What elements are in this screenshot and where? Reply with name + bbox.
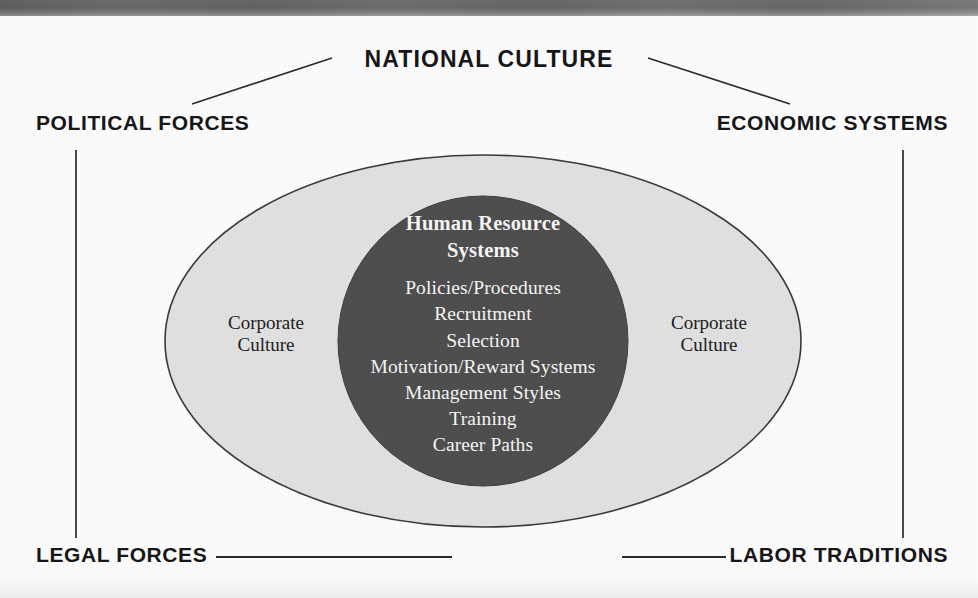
list-item: Training [297,406,669,432]
list-item: Policies/Procedures [297,275,669,301]
label-national-culture: NATIONAL CULTURE [0,46,978,73]
label-economic-systems: ECONOMIC SYSTEMS [717,111,948,135]
human-resource-systems-content: Human Resource Systems Policies/Procedur… [297,210,669,459]
human-resource-systems-list: Policies/Procedures Recruitment Selectio… [297,275,669,459]
label-labor-traditions: LABOR TRADITIONS [730,543,948,567]
list-item: Management Styles [297,380,669,406]
human-resource-systems-title: Human Resource Systems [297,210,669,264]
list-item: Recruitment [297,301,669,327]
list-item: Career Paths [297,432,669,458]
list-item: Motivation/Reward Systems [297,354,669,380]
hr-title-line1: Human Resource [297,210,669,237]
list-item: Selection [297,328,669,354]
label-legal-forces: LEGAL FORCES [36,543,207,567]
scan-bottom-shadow [0,576,978,598]
hr-title-line2: Systems [297,237,669,264]
label-political-forces: POLITICAL FORCES [36,111,249,135]
